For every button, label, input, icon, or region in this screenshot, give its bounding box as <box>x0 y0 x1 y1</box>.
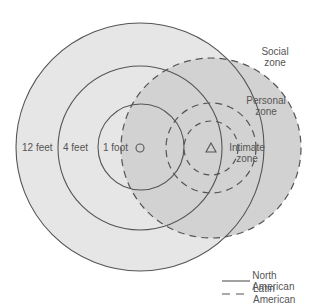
latin-social-zone-fill <box>121 58 301 238</box>
label-social-zone: Social zone <box>250 46 300 68</box>
social-zone-line2: zone <box>250 57 300 68</box>
social-zone-line1: Social <box>250 46 300 57</box>
label-1-foot: 1 foot <box>103 142 128 153</box>
dashed-line-icon <box>222 290 251 298</box>
label-personal-zone: Personal zone <box>238 95 294 117</box>
label-4-feet: 4 feet <box>63 142 88 153</box>
label-12-feet: 12 feet <box>22 142 53 153</box>
legend-latin-american: Latin American <box>222 283 317 305</box>
legend-label: Latin American <box>253 283 317 305</box>
intimate-zone-line2: zone <box>222 153 272 164</box>
proxemics-diagram: 12 feet 4 feet 1 foot Social zone Person… <box>0 0 317 308</box>
label-intimate-zone: Intimate zone <box>222 142 272 164</box>
personal-zone-line2: zone <box>238 106 294 117</box>
intimate-zone-line1: Intimate <box>222 142 272 153</box>
personal-zone-line1: Personal <box>238 95 294 106</box>
